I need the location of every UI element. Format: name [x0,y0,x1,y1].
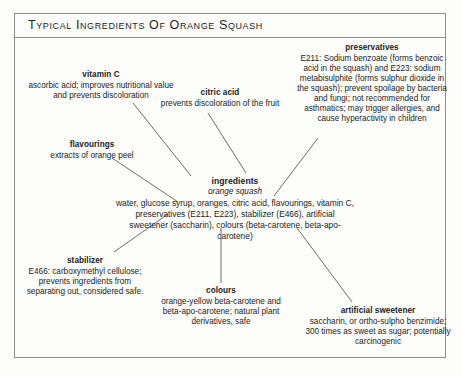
page-title: Typical Ingredients Of Orange Squash [28,18,263,32]
node-citric-acid: citric acid prevents discoloration of th… [160,88,280,109]
node-ingredients: ingredients orange squash water, glucose… [115,176,355,242]
node-heading: stabilizer [22,256,148,266]
node-artificial-sweetener: artificial sweetener saccharin, or ortho… [302,306,454,347]
node-body: E211: Sodium benzoate (forms benzoic aci… [296,54,448,124]
node-heading: citric acid [160,88,280,98]
node-flavourings: flavourings extracts of orange peel [22,140,162,161]
node-stabilizer: stabilizer E466: carboxymethyl cellulose… [22,256,148,297]
node-heading: ingredients [115,176,355,186]
diagram-page: Typical Ingredients Of Orange Squash vit… [0,0,461,376]
node-body: extracts of orange peel [22,151,162,161]
node-subheading: orange squash [115,187,355,197]
node-body: prevents discoloration of the fruit [160,99,280,109]
node-body: ascorbic acid; improves nutritional valu… [26,81,176,101]
node-body: orange-yellow beta-carotene and beta-apo… [160,297,282,327]
title-bar: Typical Ingredients Of Orange Squash [15,14,445,38]
node-vitamin-c: vitamin C ascorbic acid; improves nutrit… [26,70,176,101]
node-preservatives: preservatives E211: Sodium benzoate (for… [296,43,448,124]
node-body: E466: carboxymethyl cellulose; prevents … [22,267,148,297]
node-heading: colours [160,286,282,296]
node-body: water, glucose syrup, oranges, citric ac… [115,198,355,242]
node-body: saccharin, or ortho-sulpho benzimide; 30… [302,317,454,347]
node-heading: artificial sweetener [302,306,454,316]
node-heading: preservatives [296,43,448,53]
node-heading: flavourings [22,140,162,150]
node-heading: vitamin C [26,70,176,80]
node-colours: colours orange-yellow beta-carotene and … [160,286,282,327]
